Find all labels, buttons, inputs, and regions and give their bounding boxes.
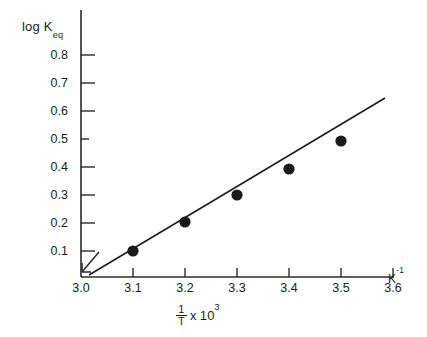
x-axis-unit-label: K-1	[388, 272, 404, 286]
data-point	[283, 163, 294, 174]
data-point	[179, 216, 190, 227]
y-tick-label: 0.2	[38, 216, 68, 230]
x-tick-label: 3.1	[116, 281, 150, 295]
x-axis-unit-base: K	[388, 272, 396, 286]
x-axis-title: 1 T x 103	[176, 304, 220, 327]
x-tick-label: 3.0	[64, 281, 98, 295]
x-axis-unit-exponent: -1	[396, 265, 404, 275]
y-tick-label: 0.5	[38, 132, 68, 146]
x-tick-label: 3.4	[272, 281, 306, 295]
x-tick-label: 3.5	[324, 281, 358, 295]
y-tick-label: 0.1	[38, 244, 68, 258]
data-point	[231, 189, 242, 200]
y-tick-label: 0.8	[38, 48, 68, 62]
y-axis-title-main: log K	[22, 19, 53, 34]
power-of-ten: 103	[200, 308, 220, 323]
y-axis-title-subscript: eq	[53, 30, 64, 40]
x-tick-marks	[133, 268, 393, 277]
x-tick-label: 3.2	[168, 281, 202, 295]
axes-group	[81, 10, 394, 277]
y-axis-title: log Keq	[22, 19, 63, 34]
y-tick-label: 0.4	[38, 160, 68, 174]
x-tick-label: 3.3	[220, 281, 254, 295]
origin-break-arrow	[82, 252, 99, 272]
y-tick-label: 0.7	[38, 76, 68, 90]
data-points	[127, 135, 346, 256]
y-tick-label: 0.3	[38, 188, 68, 202]
power-exponent: 3	[215, 302, 220, 312]
data-point	[127, 245, 138, 256]
y-tick-label: 0.6	[38, 104, 68, 118]
fraction-numerator: 1	[176, 304, 186, 315]
data-point	[335, 135, 346, 146]
one-over-t-fraction: 1 T	[176, 304, 187, 327]
power-base: 10	[200, 308, 215, 323]
chart-figure: log Keq 0.8 0.7 0.6 0.5 0.4 0.3 0.2 0.1 …	[0, 0, 427, 337]
fraction-denominator: T	[176, 316, 187, 327]
y-tick-marks	[81, 55, 95, 251]
multiplication-sign: x	[190, 308, 197, 323]
